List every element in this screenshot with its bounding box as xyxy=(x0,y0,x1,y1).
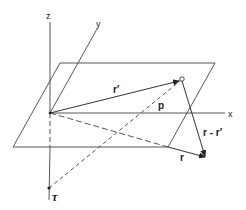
z-label: z xyxy=(46,11,51,21)
vector-diagram: z y x r′ p r r - r′ τ xyxy=(0,0,246,210)
z-axis-below xyxy=(49,147,50,200)
r-minus-r-prime-label: r - r′ xyxy=(203,127,223,138)
origin-point xyxy=(49,112,52,115)
r-prime-label: r′ xyxy=(113,84,120,95)
y-label: y xyxy=(96,19,101,29)
tau-point xyxy=(47,186,50,189)
projection-dashed xyxy=(50,113,168,147)
r-vector xyxy=(168,147,205,157)
r-minus-r-prime-vector xyxy=(182,81,205,156)
p-label: p xyxy=(158,100,164,111)
y-axis xyxy=(50,29,97,113)
tau-label: τ xyxy=(52,190,58,204)
x-label: x xyxy=(228,109,233,119)
source-point xyxy=(180,77,184,81)
r-label: r xyxy=(180,152,184,163)
